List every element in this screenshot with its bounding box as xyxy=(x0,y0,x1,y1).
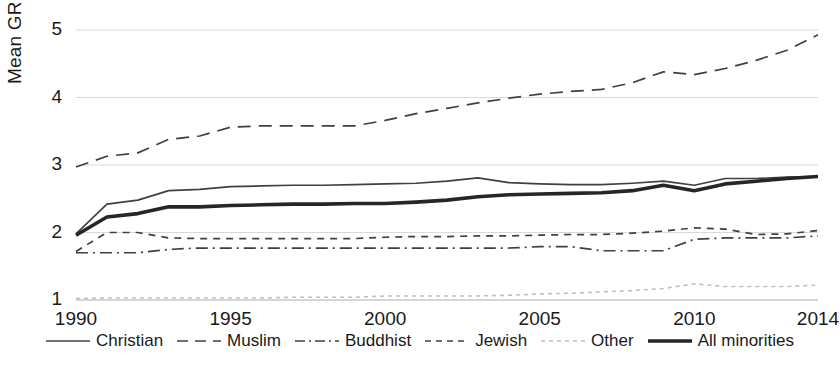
legend-swatch-other xyxy=(541,335,585,347)
legend-label-muslim: Muslim xyxy=(227,332,281,349)
legend-label-all-minorities: All minorities xyxy=(698,332,794,349)
legend-swatch-jewish xyxy=(425,335,469,347)
legend-swatch-buddhist xyxy=(295,335,339,347)
legend-item-muslim: Muslim xyxy=(177,332,281,349)
legend-item-all-minorities: All minorities xyxy=(648,332,794,349)
legend-swatch-muslim xyxy=(177,335,221,347)
plot-area xyxy=(0,0,840,372)
legend-swatch-christian xyxy=(46,335,90,347)
legend-item-other: Other xyxy=(541,332,634,349)
legend-label-buddhist: Buddhist xyxy=(345,332,411,349)
legend-swatch-all-minorities xyxy=(648,335,692,347)
chart-legend: Christian Muslim Buddhist Jewish Other A… xyxy=(0,332,840,349)
legend-label-jewish: Jewish xyxy=(475,332,527,349)
legend-item-christian: Christian xyxy=(46,332,163,349)
mean-grd-line-chart: Mean GRD 5 4 3 2 1 1990 1995 2000 2005 2… xyxy=(0,0,840,372)
legend-item-buddhist: Buddhist xyxy=(295,332,411,349)
legend-label-christian: Christian xyxy=(96,332,163,349)
legend-label-other: Other xyxy=(591,332,634,349)
legend-item-jewish: Jewish xyxy=(425,332,527,349)
